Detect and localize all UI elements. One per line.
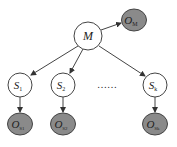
edge-m-s2 — [70, 49, 83, 73]
node-os1: OS1 — [8, 113, 33, 135]
node-m: M — [74, 22, 102, 50]
node-os2: OS2 — [51, 113, 76, 135]
node-s2: S2 — [51, 73, 75, 97]
node-sk: Sk — [143, 73, 167, 97]
node-osk: OSk — [143, 113, 168, 135]
edge-m-sk — [99, 46, 145, 76]
ellipsis: …… — [97, 79, 117, 90]
graphical-model-diagram: M OM S1 S2 Sk …… OS1 OS2 — [0, 0, 177, 147]
node-om: OM — [122, 9, 147, 31]
node-s1: S1 — [8, 73, 32, 97]
edge-m-om — [101, 23, 121, 30]
node-m-label: M — [82, 29, 94, 43]
